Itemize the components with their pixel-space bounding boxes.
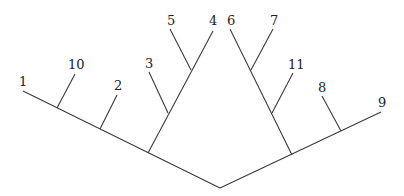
leaf-label-11: 11 bbox=[288, 57, 305, 72]
edge-root-left bbox=[23, 91, 220, 188]
leaf-label-7: 7 bbox=[270, 13, 278, 28]
leaf-label-6: 6 bbox=[227, 13, 235, 28]
leaf-label-5: 5 bbox=[167, 13, 175, 28]
edge-leaf-3 bbox=[149, 72, 168, 113]
leaf-label-1: 1 bbox=[19, 74, 27, 89]
edge-root-right bbox=[220, 112, 381, 188]
leaf-label-4: 4 bbox=[209, 13, 217, 28]
edge-leaf-2 bbox=[100, 95, 117, 129]
leaf-label-10: 10 bbox=[68, 57, 85, 72]
edge-leaf-11 bbox=[272, 73, 293, 113]
edge-leaf-10 bbox=[57, 74, 75, 108]
cladogram: 1 10 2 3 5 4 6 7 11 8 9 bbox=[0, 0, 404, 196]
edge-leaf-8 bbox=[322, 96, 341, 131]
edge-leaf-5 bbox=[170, 29, 191, 70]
leaf-label-9: 9 bbox=[378, 95, 386, 110]
leaf-label-3: 3 bbox=[145, 56, 153, 71]
leaf-label-2: 2 bbox=[114, 78, 122, 93]
leaf-label-8: 8 bbox=[318, 80, 326, 95]
edge-leaf-7 bbox=[251, 29, 273, 70]
